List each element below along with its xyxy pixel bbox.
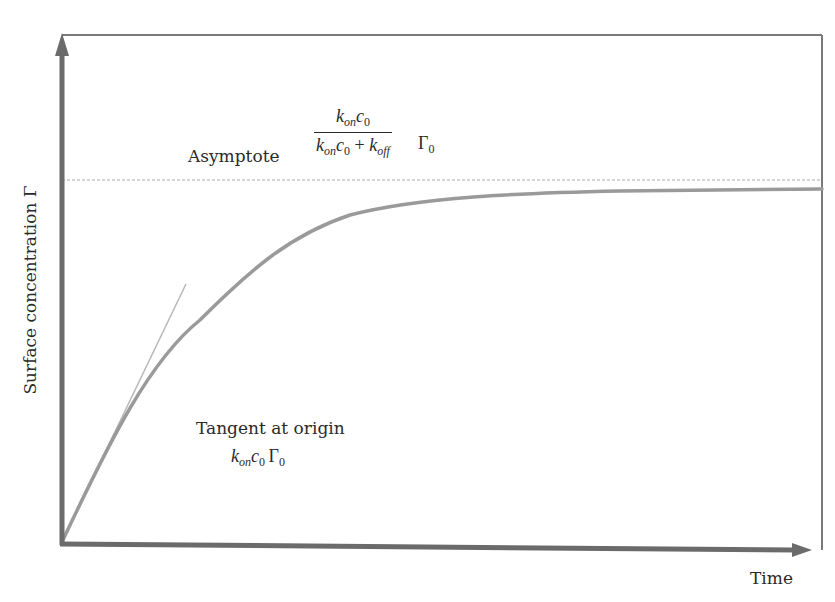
tangent-label: Tangent at origin xyxy=(196,418,345,438)
asymptote-gamma: Γ0 xyxy=(418,133,434,157)
tangent-expression: konc0 Γ0 xyxy=(231,446,285,470)
asymptote-fraction: konc0 konc0 + koff xyxy=(314,106,392,159)
x-axis-label: Time xyxy=(750,568,793,588)
y-axis-label: Surface concentration Γ xyxy=(20,185,40,394)
asymptote-label: Asymptote xyxy=(188,146,280,166)
x-axis xyxy=(60,544,795,550)
asymptote-numerator: konc0 xyxy=(314,106,392,132)
asymptote-denominator: konc0 + koff xyxy=(314,133,392,159)
adsorption-curve xyxy=(62,189,822,542)
y-axis-arrow-icon xyxy=(55,33,69,56)
x-axis-arrow-icon xyxy=(792,543,812,557)
adsorption-kinetics-diagram xyxy=(0,0,835,602)
